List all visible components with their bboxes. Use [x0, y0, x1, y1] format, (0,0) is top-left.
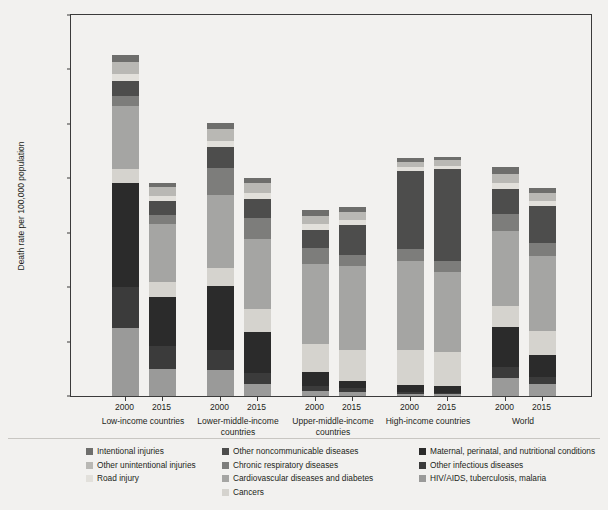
bar-segment: [149, 215, 176, 225]
stacked-bar: [207, 123, 234, 396]
bar-segment: [112, 183, 139, 287]
x-group-label: Upper-middle-income countries: [278, 416, 388, 437]
stacked-bar: [244, 178, 271, 396]
bar-segment: [339, 266, 366, 350]
legend-item[interactable]: Cardiovascular diseases and diabetes: [222, 473, 418, 484]
x-tick-mark: [447, 397, 448, 401]
bar-segment: [302, 372, 329, 386]
bar-segment: [112, 169, 139, 182]
bar-segment: [339, 212, 366, 220]
bar-segment: [149, 187, 176, 197]
bar-segment: [492, 327, 519, 366]
legend-swatch-icon: [419, 448, 426, 455]
bar-segment: [397, 394, 424, 396]
y-tick-mark: [67, 232, 71, 233]
plot-area: Death rate per 100,000 population 020040…: [70, 14, 592, 397]
legend-item-label: Road injury: [97, 473, 139, 484]
bar-segment: [339, 255, 366, 265]
bar-segment: [149, 297, 176, 346]
bar-segment: [529, 331, 556, 355]
legend-item-label: Cancers: [233, 487, 264, 498]
x-tick-mark: [542, 397, 543, 401]
y-tick-mark: [67, 287, 71, 288]
legend-item-label: Maternal, perinatal, and nutritional con…: [430, 446, 595, 457]
bar-segment: [244, 309, 271, 331]
bar-segment: [112, 81, 139, 95]
bar-segment: [302, 230, 329, 248]
bar-segment: [149, 346, 176, 369]
bar-segment: [492, 378, 519, 396]
stacked-bar: [302, 210, 329, 396]
y-tick-mark: [67, 178, 71, 179]
legend-item[interactable]: Other noncommunicable diseases: [222, 446, 418, 457]
bar-segment: [244, 332, 271, 373]
x-tick-mark: [505, 397, 506, 401]
stacked-bar: [339, 207, 366, 396]
x-tick-mark: [315, 397, 316, 401]
bar-segment: [434, 169, 461, 262]
legend-swatch-icon: [86, 448, 93, 455]
x-tick-label-year: 2015: [517, 402, 567, 412]
group-divider: [8, 438, 600, 439]
stacked-bar: [397, 158, 424, 396]
x-tick-label-year: 2015: [327, 402, 377, 412]
bar-segment: [302, 216, 329, 224]
bar-segment: [244, 239, 271, 309]
y-tick-mark: [67, 396, 71, 397]
legend-item[interactable]: HIV/AIDS, tuberculosis, malaria: [419, 473, 604, 484]
bar-segment: [149, 201, 176, 215]
x-group-label: World: [468, 416, 578, 427]
bar-segment: [397, 171, 424, 249]
y-tick-mark: [67, 69, 71, 70]
bar-segment: [397, 350, 424, 385]
bar-segment: [529, 384, 556, 396]
bar-segment: [529, 206, 556, 243]
legend-column-0: Intentional injuriesOther unintentional …: [86, 446, 221, 487]
legend-item[interactable]: Chronic respiratory diseases: [222, 460, 418, 471]
bar-segment: [434, 261, 461, 272]
legend-item[interactable]: Road injury: [86, 473, 221, 484]
bar-segment: [397, 261, 424, 350]
legend-item[interactable]: Maternal, perinatal, and nutritional con…: [419, 446, 604, 457]
stacked-bar: [434, 157, 461, 396]
legend-item[interactable]: Intentional injuries: [86, 446, 221, 457]
bar-segment: [397, 249, 424, 261]
bar-segment: [302, 248, 329, 264]
bar-segment: [492, 306, 519, 328]
x-group-label: Lower-middle-income countries: [183, 416, 293, 437]
bar-segment: [339, 350, 366, 381]
x-tick-mark: [257, 397, 258, 401]
x-tick-mark: [352, 397, 353, 401]
stacked-bar: [149, 183, 176, 396]
bar-segment: [529, 355, 556, 377]
bar-segment: [302, 391, 329, 396]
bar-segment: [244, 373, 271, 384]
legend-item[interactable]: Other unintentional injuries: [86, 460, 221, 471]
bar-segment: [434, 352, 461, 386]
bar-segment: [244, 218, 271, 239]
bar-segment: [492, 231, 519, 306]
bar-segment: [492, 189, 519, 214]
y-tick-mark: [67, 15, 71, 16]
legend-item[interactable]: Other infectious diseases: [419, 460, 604, 471]
bar-segment: [112, 287, 139, 328]
bar-segment: [529, 193, 556, 202]
bar-segment: [112, 106, 139, 169]
y-axis-title: Death rate per 100,000 population: [16, 141, 26, 270]
bar-segment: [302, 264, 329, 344]
bar-segment: [149, 369, 176, 396]
bar-segment: [207, 268, 234, 286]
legend-swatch-icon: [86, 475, 93, 482]
y-tick-mark: [67, 123, 71, 124]
bar-segment: [339, 381, 366, 388]
legend-item[interactable]: Cancers: [222, 487, 418, 498]
bar-segment: [112, 74, 139, 81]
legend-item-label: Other noncommunicable diseases: [233, 446, 358, 457]
x-tick-label-year: 2015: [232, 402, 282, 412]
bar-segment: [244, 199, 271, 218]
bar-segment: [302, 344, 329, 373]
bar-segment: [207, 147, 234, 168]
legend-item-label: Chronic respiratory diseases: [233, 460, 338, 471]
legend-swatch-icon: [419, 462, 426, 469]
legend-swatch-icon: [222, 462, 229, 469]
